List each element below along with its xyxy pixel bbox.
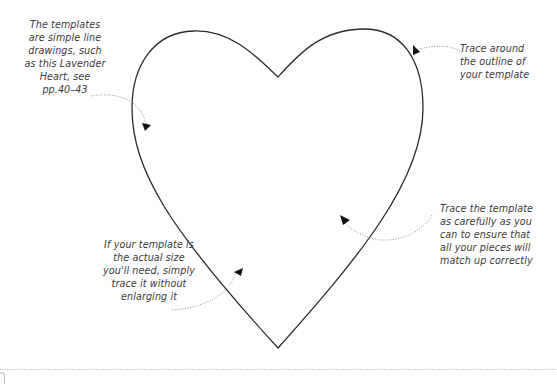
annotation-actual-size-note: If your template is the actual size you'… — [94, 238, 204, 303]
heart-template-illustration: The templates are simple line drawings, … — [0, 0, 557, 384]
arrowhead-2-icon — [413, 45, 420, 55]
dotted-leader-3 — [344, 215, 432, 240]
dotted-leader-2 — [416, 46, 462, 53]
arrowhead-4-icon — [234, 268, 243, 276]
arrowhead-3-icon — [340, 215, 350, 225]
dotted-leader-1 — [91, 95, 146, 124]
arrowhead-1-icon — [142, 123, 151, 131]
annotation-trace-carefully-note: Trace the template as carefully as you c… — [440, 202, 557, 267]
annotation-templates-note: The templates are simple line drawings, … — [22, 18, 108, 96]
annotation-trace-around-note: Trace around the outline of your templat… — [460, 42, 550, 81]
corner-mark — [0, 373, 5, 384]
